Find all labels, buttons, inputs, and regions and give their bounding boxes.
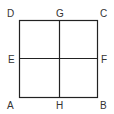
label-C: C xyxy=(100,8,107,19)
label-A: A xyxy=(7,100,14,111)
label-B: B xyxy=(100,100,107,111)
label-D: D xyxy=(7,8,14,19)
label-E: E xyxy=(8,54,15,65)
square-diagram: D G C E F A H B xyxy=(0,0,114,114)
label-H: H xyxy=(56,100,63,111)
label-F: F xyxy=(101,54,107,65)
label-G: G xyxy=(56,8,64,19)
